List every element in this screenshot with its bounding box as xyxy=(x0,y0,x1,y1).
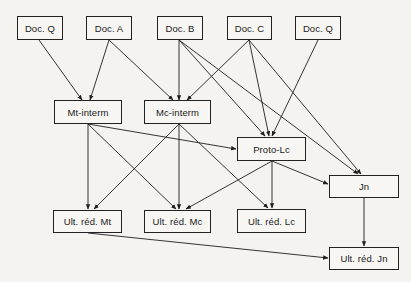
edges-layer xyxy=(0,0,411,282)
node-label: Proto-Lc xyxy=(253,144,290,155)
node-label: Doc. C xyxy=(235,23,265,34)
node-label: Jn xyxy=(359,181,369,192)
edge-protoLc-to-jn xyxy=(272,161,328,184)
node-label: Mc-interm xyxy=(156,107,199,118)
edge-docQ1-to-mtInterm xyxy=(39,40,82,100)
node-label: Mt-interm xyxy=(67,107,108,118)
edge-protoLc-to-ultMc xyxy=(186,161,272,209)
node-docA: Doc. A xyxy=(86,16,132,40)
node-jn: Jn xyxy=(329,175,399,198)
edge-docQ2-to-protoLc xyxy=(272,40,318,136)
node-ultJn: Ult. réd. Jn xyxy=(329,247,399,270)
node-docC: Doc. C xyxy=(227,16,272,40)
node-label: Ult. réd. Lc xyxy=(248,216,295,227)
node-label: Doc. A xyxy=(95,23,124,34)
node-label: Ult. réd. Jn xyxy=(340,253,387,264)
node-label: Doc. B xyxy=(165,23,194,34)
node-label: Ult. réd. Mc xyxy=(153,216,203,227)
node-ultLc: Ult. réd. Lc xyxy=(237,209,306,233)
edge-docA-to-mcInterm xyxy=(109,40,173,100)
node-protoLc: Proto-Lc xyxy=(237,137,306,161)
node-label: Doc. Q xyxy=(25,23,55,34)
node-label: Doc. Q xyxy=(303,23,333,34)
node-docQ2: Doc. Q xyxy=(295,16,341,40)
edge-docC-to-mcInterm xyxy=(187,40,249,100)
node-docB: Doc. B xyxy=(157,16,203,40)
node-docQ1: Doc. Q xyxy=(17,16,63,40)
node-label: Ult. réd. Mt xyxy=(64,216,112,227)
edge-mcInterm-to-ultMt xyxy=(94,124,179,209)
node-mcInterm: Mc-interm xyxy=(144,100,211,124)
node-mtInterm: Mt-interm xyxy=(54,100,122,124)
node-ultMt: Ult. réd. Mt xyxy=(53,210,122,233)
node-ultMc: Ult. réd. Mc xyxy=(144,210,211,233)
edge-ultMt-to-ultJn xyxy=(88,233,328,258)
edge-docA-to-mtInterm xyxy=(90,40,109,100)
